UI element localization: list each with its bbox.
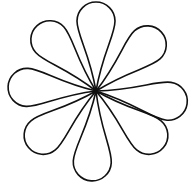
petal-left — [7, 67, 97, 110]
petal-up — [77, 2, 115, 91]
flower-drawing — [0, 0, 191, 193]
petal-down — [72, 90, 115, 182]
flower-figure: Flower of eight teardrop petals — [0, 0, 191, 193]
